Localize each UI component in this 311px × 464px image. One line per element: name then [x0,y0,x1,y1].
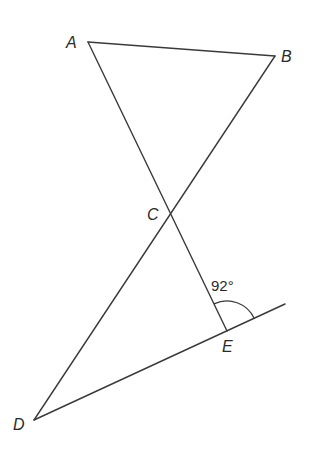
label-c: C [147,206,159,223]
label-e: E [222,338,233,355]
angle-label: 92° [211,277,234,294]
segment-ab [88,42,275,56]
segment-ae [88,42,227,331]
label-d: D [13,416,25,433]
segment-bd [34,56,275,420]
label-b: B [281,48,292,65]
label-a: A [65,34,77,51]
geometry-diagram: A B C D E 92° [0,0,311,464]
